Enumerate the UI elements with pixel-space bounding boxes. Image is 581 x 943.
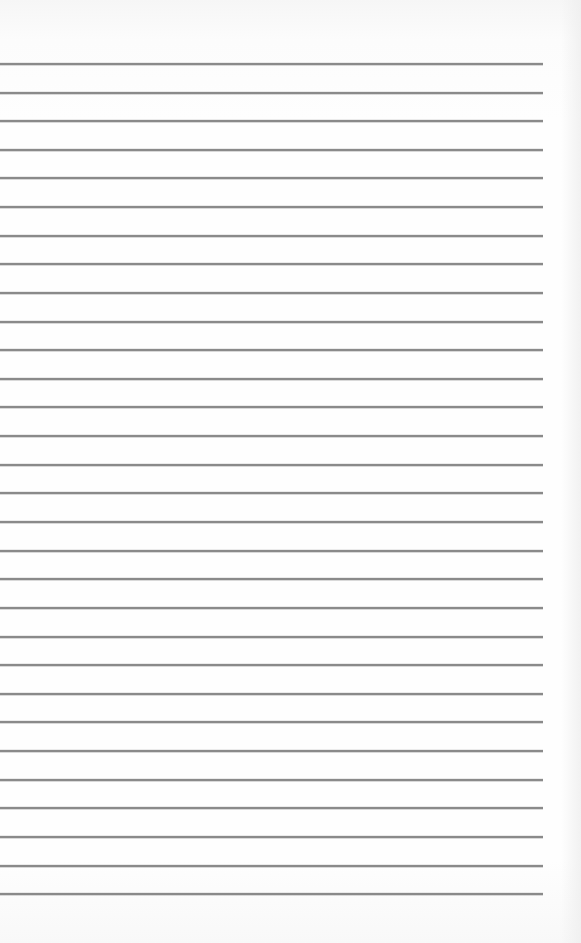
lined-paper-sheet	[0, 0, 581, 943]
ruled-line	[0, 464, 543, 466]
ruled-line	[0, 235, 543, 237]
ruled-line	[0, 893, 543, 895]
ruled-line	[0, 406, 543, 408]
ruled-line	[0, 435, 543, 437]
ruled-line	[0, 63, 543, 65]
ruled-line	[0, 607, 543, 609]
ruled-line	[0, 521, 543, 523]
ruled-line	[0, 636, 543, 638]
ruled-line	[0, 779, 543, 781]
ruled-line	[0, 807, 543, 809]
ruled-line	[0, 177, 543, 179]
ruled-line	[0, 693, 543, 695]
ruled-line	[0, 292, 543, 294]
ruled-line	[0, 92, 543, 94]
ruled-line	[0, 550, 543, 552]
ruled-line	[0, 750, 543, 752]
ruled-line	[0, 149, 543, 151]
ruled-line	[0, 492, 543, 494]
ruled-line	[0, 378, 543, 380]
ruled-line	[0, 349, 543, 351]
ruled-line	[0, 721, 543, 723]
ruled-line	[0, 836, 543, 838]
ruled-line	[0, 865, 543, 867]
ruled-line	[0, 321, 543, 323]
ruled-line	[0, 206, 543, 208]
ruled-line	[0, 120, 543, 122]
ruled-line	[0, 263, 543, 265]
ruled-line	[0, 578, 543, 580]
ruled-line	[0, 664, 543, 666]
